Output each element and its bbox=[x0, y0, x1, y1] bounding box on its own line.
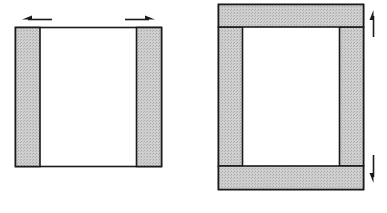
left-strip bbox=[16, 28, 41, 167]
up-arrow-icon bbox=[370, 10, 374, 37]
right-strip bbox=[340, 27, 364, 166]
figure-vertical-expansion bbox=[219, 5, 374, 190]
top-strip bbox=[219, 5, 364, 28]
right-strip bbox=[137, 28, 162, 167]
figure-horizontal-expansion bbox=[16, 16, 162, 167]
left-strip bbox=[219, 27, 243, 166]
down-arrow-icon bbox=[370, 155, 374, 183]
left-arrow-icon bbox=[22, 16, 52, 20]
bottom-strip bbox=[219, 166, 364, 190]
diagram-canvas bbox=[0, 0, 387, 213]
right-arrow-icon bbox=[125, 16, 155, 20]
